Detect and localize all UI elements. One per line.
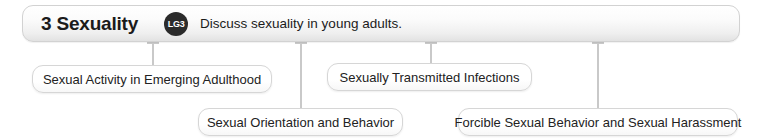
topic-box[interactable]: Sexually Transmitted Infections xyxy=(327,63,532,91)
connector-line xyxy=(597,42,599,108)
learning-goal-header: 3 Sexuality LG3 Discuss sexuality in you… xyxy=(22,5,740,42)
topic-label: Forcible Sexual Behavior and Sexual Hara… xyxy=(439,115,758,130)
topic-box[interactable]: Sexual Activity in Emerging Adulthood xyxy=(32,65,272,93)
page-title: 3 Sexuality xyxy=(41,13,138,35)
topic-label: Sexually Transmitted Infections xyxy=(324,70,536,85)
topic-box[interactable]: Sexual Orientation and Behavior xyxy=(198,108,403,136)
connector-cap xyxy=(592,42,604,44)
connector-line xyxy=(300,42,302,108)
learning-goal-description: Discuss sexuality in young adults. xyxy=(200,16,402,31)
connector-cap xyxy=(147,42,159,44)
connector-line xyxy=(430,42,432,63)
topic-box[interactable]: Forcible Sexual Behavior and Sexual Hara… xyxy=(458,108,738,136)
connector-line xyxy=(152,42,154,65)
connector-cap xyxy=(295,42,307,44)
learning-goal-badge-icon: LG3 xyxy=(164,12,188,36)
connector-cap xyxy=(425,42,437,44)
topic-label: Sexual Activity in Emerging Adulthood xyxy=(27,72,277,87)
topic-label: Sexual Orientation and Behavior xyxy=(191,115,410,130)
learning-goal-diagram: 3 Sexuality LG3 Discuss sexuality in you… xyxy=(0,0,763,139)
